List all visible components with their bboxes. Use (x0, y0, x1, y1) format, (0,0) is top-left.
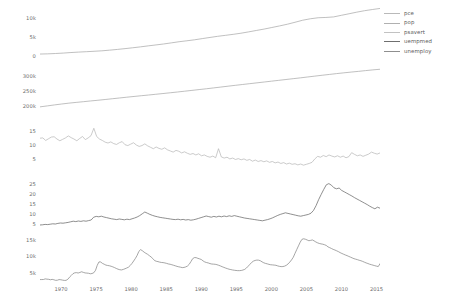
legend-item-psavert[interactable]: psavert (384, 28, 432, 37)
y-tick-label: 15k (26, 237, 36, 243)
economics-facet-chart: 05k10k 200k250k300k 51015 510152025 5k10… (0, 0, 452, 303)
plot-area-uempmed (40, 180, 380, 228)
x-tick-label: 2005 (300, 286, 313, 292)
y-axis-pce: 05k10k (0, 8, 36, 56)
y-axis-unemploy: 5k10k15k (0, 236, 36, 282)
y-axis-pop: 200k250k300k (0, 68, 36, 108)
series-pce (40, 8, 380, 56)
series-uempmed (40, 180, 380, 228)
legend-item-pce[interactable]: pce (384, 9, 432, 18)
x-tick-label: 1975 (89, 286, 102, 292)
y-tick-label: 300k (23, 73, 36, 79)
legend-label: psavert (404, 30, 425, 35)
x-tick-label: 2010 (335, 286, 348, 292)
legend-label: unemploy (404, 49, 432, 54)
y-tick-label: 5 (33, 221, 36, 227)
y-tick-label: 10k (26, 253, 36, 259)
legend-item-pop[interactable]: pop (384, 18, 432, 27)
y-tick-label: 25 (29, 181, 36, 187)
y-tick-label: 5k (29, 270, 36, 276)
legend-line-icon (384, 13, 400, 14)
series-psavert (40, 124, 380, 168)
y-axis-psavert: 51015 (0, 124, 36, 168)
plot-area-pce (40, 8, 380, 56)
y-tick-label: 10 (29, 142, 36, 148)
y-tick-label: 10 (29, 211, 36, 217)
series-pop (40, 68, 380, 108)
x-tick-label: 1980 (125, 286, 138, 292)
panel-uempmed: 510152025 (0, 180, 452, 228)
legend-item-uempmed[interactable]: uempmed (384, 37, 432, 46)
x-tick-label: 1985 (160, 286, 173, 292)
legend-item-unemploy[interactable]: unemploy (384, 47, 432, 56)
y-tick-label: 5k (29, 34, 36, 40)
legend: pcepoppsavertuempmedunemploy (384, 9, 432, 56)
plot-area-pop (40, 68, 380, 108)
x-tick-label: 1970 (54, 286, 67, 292)
legend-label: pce (404, 11, 414, 16)
legend-line-icon (384, 32, 400, 33)
x-axis: 1970197519801985199019952000200520102015 (40, 286, 380, 300)
y-tick-label: 15 (29, 128, 36, 134)
legend-label: pop (404, 20, 414, 25)
legend-line-icon (384, 51, 400, 52)
y-tick-label: 0 (33, 53, 36, 59)
y-axis-uempmed: 510152025 (0, 180, 36, 228)
x-tick-label: 1990 (195, 286, 208, 292)
panel-unemploy: 5k10k15k (0, 236, 452, 282)
y-tick-label: 250k (23, 88, 36, 94)
series-unemploy (40, 236, 380, 282)
legend-label: uempmed (404, 39, 432, 44)
y-tick-label: 5 (33, 156, 36, 162)
legend-line-icon (384, 41, 400, 42)
x-tick-label: 1995 (230, 286, 243, 292)
plot-area-psavert (40, 124, 380, 168)
x-tick-label: 2000 (265, 286, 278, 292)
panel-pop: 200k250k300k (0, 68, 452, 108)
legend-line-icon (384, 23, 400, 24)
y-tick-label: 15 (29, 201, 36, 207)
y-tick-label: 20 (29, 191, 36, 197)
y-tick-label: 10k (26, 15, 36, 21)
x-tick-label: 2015 (370, 286, 383, 292)
y-tick-label: 200k (23, 103, 36, 109)
panel-psavert: 51015 (0, 124, 452, 168)
plot-area-unemploy (40, 236, 380, 282)
